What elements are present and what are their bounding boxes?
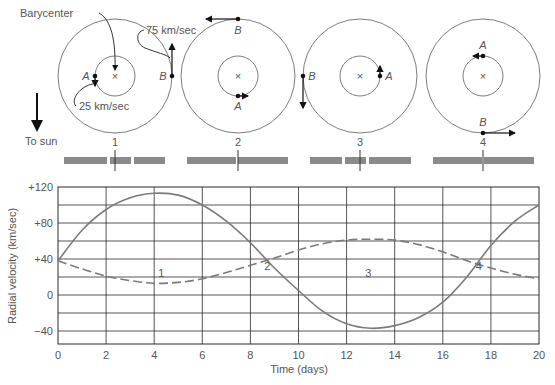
star-a-dot	[481, 54, 486, 59]
spectrum-segment	[433, 157, 482, 164]
spectra-strips: 1234	[64, 136, 534, 171]
star-b-label: B	[234, 24, 241, 36]
x-tick-label: 12	[340, 349, 352, 361]
radial-velocity-chart: 02468101214161820+120+80+400−401234	[28, 181, 545, 361]
spectrum-3: 3	[310, 136, 411, 171]
star-a-dot	[93, 74, 98, 79]
spectrum-segment	[110, 157, 131, 164]
x-tick-label: 14	[389, 349, 401, 361]
spectrum-4: 4	[433, 136, 534, 171]
spectrum-segment	[369, 157, 411, 164]
speed-a-label: 25 km/sec	[79, 100, 130, 112]
spectrum-segment	[64, 157, 107, 164]
barycenter-mark-icon: ×	[357, 70, 363, 82]
spectrum-segment	[345, 157, 366, 164]
x-tick-label: 8	[247, 349, 253, 361]
phase-annotation: 1	[158, 267, 164, 279]
star-b-dot	[481, 131, 486, 136]
star-b-label: B	[308, 70, 315, 82]
x-tick-label: 16	[437, 349, 449, 361]
barycenter-mark-icon: ×	[112, 70, 118, 82]
orbit-phase-2: ×AB	[181, 17, 295, 133]
y-axis-label: Radial velocity (km/sec)	[6, 208, 18, 324]
y-tick-label: −40	[34, 325, 53, 337]
star-b-dot	[301, 74, 306, 79]
orbit-diagrams: ×AB×AB×AB×AB	[58, 17, 540, 136]
orbit-phase-3: ×AB	[301, 19, 417, 133]
star-a-label: A	[384, 70, 392, 82]
phase-annotation: 2	[264, 260, 270, 272]
x-tick-label: 6	[199, 349, 205, 361]
barycenter-mark-icon: ×	[235, 70, 241, 82]
x-tick-label: 10	[292, 349, 304, 361]
spectrum-2: 2	[187, 136, 288, 171]
star-b-dot	[170, 74, 175, 79]
phase-label: 1	[112, 136, 118, 148]
y-tick-label: +80	[34, 217, 53, 229]
x-axis-label: Time (days)	[270, 363, 328, 375]
x-tick-label: 2	[103, 349, 109, 361]
star-b-label: B	[479, 116, 486, 128]
y-tick-label: +120	[28, 181, 53, 193]
x-tick-label: 4	[151, 349, 157, 361]
x-tick-label: 20	[533, 349, 545, 361]
spectrum-segment	[134, 157, 165, 164]
phase-annotation: 4	[476, 260, 482, 272]
spectrum-segment	[484, 157, 534, 164]
star-b-dot	[236, 17, 241, 22]
spectrum-segment	[238, 157, 288, 164]
phase-annotation: 3	[365, 267, 371, 279]
orbit-phase-1: ×AB	[58, 19, 174, 133]
y-tick-label: +40	[34, 253, 53, 265]
speed-b-label: 75 km/sec	[146, 24, 197, 36]
spectrum-segment	[310, 157, 342, 164]
spectrum-1: 1	[64, 136, 165, 171]
phase-label: 2	[235, 136, 241, 148]
phase-label: 3	[357, 136, 363, 148]
barycenter-label: Barycenter	[20, 7, 74, 19]
x-tick-label: 18	[485, 349, 497, 361]
orbit-phase-4: ×AB	[426, 19, 540, 135]
x-tick-label: 0	[55, 349, 61, 361]
to-sun-label: To sun	[25, 135, 57, 147]
spectrum-segment	[187, 157, 236, 164]
star-a-label: A	[478, 39, 486, 51]
y-tick-label: 0	[47, 289, 53, 301]
star-a-dot	[236, 94, 241, 99]
star-a-dot	[378, 74, 383, 79]
binary-star-figure: ×AB×AB×AB×AB Barycenter 75 km/sec 25 km/…	[0, 0, 555, 385]
star-a-label: A	[233, 100, 241, 112]
star-b-label: B	[159, 70, 166, 82]
star-a-label: A	[81, 70, 89, 82]
phase-label: 4	[480, 136, 486, 148]
barycenter-mark-icon: ×	[480, 70, 486, 82]
